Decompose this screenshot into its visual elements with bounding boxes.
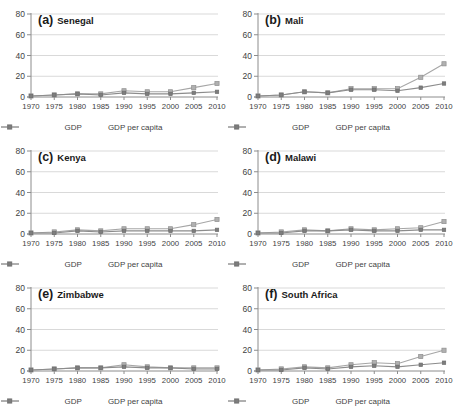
x-tick-label: 1990 — [115, 239, 133, 248]
y-tick-label: 60 — [243, 30, 253, 40]
y-tick-label: 0 — [20, 229, 25, 239]
chart-plot-kenya: 0204060801970197519801985199019952000200… — [0, 137, 227, 274]
panel-zimbabwe: 0204060801970197519801985199019952000200… — [0, 274, 227, 411]
x-tick-label: 1970 — [22, 239, 40, 248]
x-tick-label: 2010 — [208, 376, 226, 385]
x-tick-label: 2005 — [412, 376, 430, 385]
legend-label-gdp: GDP — [65, 397, 82, 406]
gdp-per-capita-series-marker-icon — [227, 397, 247, 405]
panel-label: (f) — [265, 287, 278, 301]
x-tick-label: 2010 — [435, 102, 453, 111]
panel-country-name: Malawi — [285, 152, 316, 163]
panel-country-name: Senegal — [57, 15, 93, 26]
x-tick-label: 2005 — [412, 239, 430, 248]
x-tick-label: 2000 — [389, 376, 407, 385]
panel-grid: 0204060801970197519801985199019952000200… — [0, 0, 455, 411]
legend-label-gdp: GDP — [65, 260, 82, 269]
x-tick-label: 1990 — [342, 376, 360, 385]
x-tick-label: 1975 — [46, 102, 64, 111]
legend-item-gdp: GDP — [65, 123, 82, 132]
x-tick-label: 2005 — [185, 239, 203, 248]
legend: GDP GDP per capita — [0, 397, 227, 406]
panel-mali: 0204060801970197519801985199019952000200… — [227, 0, 455, 137]
x-tick-label: 2010 — [435, 376, 453, 385]
gdp-per-capita-series-marker-icon — [227, 123, 247, 131]
y-tick-label: 0 — [247, 366, 252, 376]
chart-plot-zimbabwe: 0204060801970197519801985199019952000200… — [0, 274, 227, 411]
x-tick-label: 1970 — [249, 376, 267, 385]
x-tick-label: 1970 — [22, 102, 40, 111]
y-tick-label: 20 — [243, 71, 253, 81]
y-tick-label: 20 — [16, 208, 26, 218]
legend-item-gdp-per-capita: GDP per capita — [108, 397, 163, 406]
legend: GDP GDP per capita — [227, 397, 455, 406]
x-tick-label: 1995 — [366, 376, 384, 385]
chart-plot-south-africa: 0204060801970197519801985199019952000200… — [227, 274, 454, 411]
panel-title: (e) Zimbabwe — [38, 287, 104, 301]
gdp-per-capita-series-marker-icon — [227, 260, 247, 268]
gdp-series — [256, 62, 446, 98]
legend: GDP GDP per capita — [0, 260, 227, 269]
panel-country-name: Zimbabwe — [57, 289, 103, 300]
legend-item-gdp-per-capita: GDP per capita — [335, 260, 390, 269]
x-tick-label: 2000 — [389, 239, 407, 248]
panel-kenya: 0204060801970197519801985199019952000200… — [0, 137, 227, 274]
legend-item-gdp-per-capita: GDP per capita — [335, 397, 390, 406]
y-tick-label: 40 — [243, 325, 253, 335]
x-tick-label: 1970 — [22, 376, 40, 385]
x-tick-label: 1995 — [366, 102, 384, 111]
y-tick-label: 0 — [247, 229, 252, 239]
x-tick-label: 1980 — [69, 102, 87, 111]
x-tick-label: 2005 — [185, 376, 203, 385]
gdp-per-capita-series — [256, 82, 445, 98]
y-tick-label: 20 — [243, 208, 253, 218]
panel-title: (c) Kenya — [38, 150, 86, 164]
legend: GDP GDP per capita — [0, 123, 227, 132]
panel-south-africa: 0204060801970197519801985199019952000200… — [227, 274, 455, 411]
y-tick-label: 60 — [16, 304, 26, 314]
gdp-per-capita-series-marker-icon — [0, 260, 20, 268]
panel-label: (b) — [265, 13, 281, 27]
gdp-series — [29, 81, 219, 98]
x-tick-label: 1985 — [319, 102, 337, 111]
y-tick-label: 40 — [243, 51, 253, 61]
x-tick-label: 2005 — [185, 102, 203, 111]
legend-label-gdp: GDP — [292, 397, 309, 406]
x-tick-label: 1995 — [366, 239, 384, 248]
panel-country-name: Kenya — [57, 152, 86, 163]
panel-senegal: 0204060801970197519801985199019952000200… — [0, 0, 227, 137]
legend-label-gdp: GDP — [292, 260, 309, 269]
x-tick-label: 1975 — [46, 376, 64, 385]
y-tick-label: 20 — [16, 71, 26, 81]
x-tick-label: 2000 — [162, 376, 180, 385]
x-tick-label: 1975 — [273, 102, 291, 111]
panel-label: (e) — [38, 287, 53, 301]
legend-item-gdp-per-capita: GDP per capita — [108, 123, 163, 132]
x-tick-label: 1995 — [139, 239, 157, 248]
legend: GDP GDP per capita — [227, 260, 455, 269]
y-tick-label: 40 — [16, 188, 26, 198]
panel-title: (b) Mali — [265, 13, 303, 27]
x-tick-label: 1970 — [249, 102, 267, 111]
y-tick-label: 80 — [243, 146, 253, 156]
y-tick-label: 80 — [16, 146, 26, 156]
x-tick-label: 2010 — [435, 239, 453, 248]
y-tick-label: 0 — [247, 92, 252, 102]
y-tick-label: 80 — [16, 9, 26, 19]
y-tick-label: 60 — [243, 304, 253, 314]
gdp-per-capita-series-marker-icon — [0, 123, 20, 131]
chart-plot-mali: 0204060801970197519801985199019952000200… — [227, 0, 454, 137]
y-tick-label: 20 — [16, 345, 26, 355]
legend-label-gdp-per-capita: GDP per capita — [108, 123, 163, 132]
x-tick-label: 1980 — [296, 376, 314, 385]
x-tick-label: 1990 — [342, 102, 360, 111]
legend-label-gdp: GDP — [65, 123, 82, 132]
x-tick-label: 2000 — [389, 102, 407, 111]
x-tick-label: 1985 — [92, 102, 110, 111]
y-tick-label: 80 — [16, 283, 26, 293]
chart-plot-senegal: 0204060801970197519801985199019952000200… — [0, 0, 227, 137]
panel-title: (d) Malawi — [265, 150, 316, 164]
panel-malawi: 0204060801970197519801985199019952000200… — [227, 137, 455, 274]
legend-label-gdp-per-capita: GDP per capita — [108, 397, 163, 406]
x-tick-label: 2000 — [162, 239, 180, 248]
